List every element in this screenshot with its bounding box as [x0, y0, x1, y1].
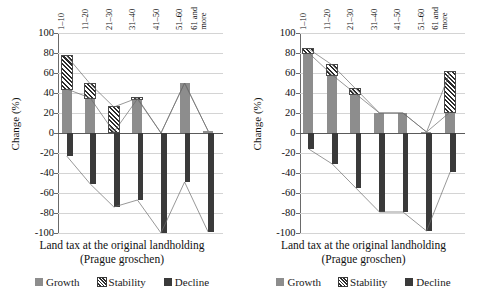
bar-decline[interactable] — [403, 133, 409, 212]
x-axis-title-line2: (Prague groschen) — [8, 252, 236, 266]
bar-decline[interactable] — [426, 133, 432, 231]
y-axis-title-right: Change (%) — [251, 79, 263, 169]
bar-group: 11–20 — [323, 33, 347, 233]
y-axis-tick-mark — [296, 233, 300, 234]
bar-decline[interactable] — [332, 133, 338, 164]
bar-decline[interactable] — [114, 133, 120, 207]
legend-label-growth: Growth — [46, 276, 80, 288]
bar-group: 1–10 — [58, 33, 82, 233]
y-axis-tick-label: 100 — [38, 28, 54, 39]
x-axis-category-label: 1–10 — [299, 13, 308, 30]
y-axis-tick-label: 20 — [285, 108, 296, 119]
bar-stability[interactable] — [109, 107, 119, 132]
bar-group: 21–30 — [347, 33, 371, 233]
bar-growth[interactable] — [327, 75, 337, 133]
bar-decline[interactable] — [450, 133, 456, 172]
y-axis-tick-label: -20 — [40, 148, 54, 159]
bar-group: 61 andmore — [441, 33, 465, 233]
gridline — [58, 233, 223, 234]
bar-group: 51–60 — [176, 33, 200, 233]
chart-panel-right: Change (%) 100806040200-20-40-60-80-1001… — [242, 0, 483, 295]
bar-decline[interactable] — [161, 133, 167, 233]
y-axis-tick-label: 60 — [285, 68, 296, 79]
legend-swatch-decline-icon — [405, 278, 413, 286]
y-axis-title-left: Change (%) — [9, 79, 21, 169]
bar-group: 51–60 — [417, 33, 441, 233]
bar-group: 41–50 — [152, 33, 176, 233]
y-axis-tick-label: -100 — [35, 228, 54, 239]
bar-growth[interactable] — [180, 83, 190, 133]
x-axis-category-label: 41–50 — [152, 9, 161, 30]
chart-panel-left: Change (%) 100806040200-20-40-60-80-1001… — [0, 0, 242, 295]
y-axis-tick-label: -20 — [282, 148, 296, 159]
y-axis-tick-label: -60 — [282, 188, 296, 199]
bar-stability[interactable] — [85, 84, 95, 98]
bar-decline[interactable] — [356, 133, 362, 188]
legend-item-stability: Stability — [339, 276, 387, 288]
bar-stability[interactable] — [132, 98, 142, 99]
x-axis-title-left: Land tax at the original landholding (Pr… — [8, 238, 236, 266]
bar-group: 11–20 — [82, 33, 106, 233]
legend-label-decline: Decline — [416, 276, 450, 288]
y-axis-tick-label: 60 — [44, 68, 55, 79]
bar-group: 21–30 — [105, 33, 129, 233]
legend-label-growth: Growth — [287, 276, 321, 288]
x-axis-category-label: 21–30 — [105, 9, 114, 30]
two-panel-bar-chart-figure: Change (%) 100806040200-20-40-60-80-1001… — [0, 0, 483, 295]
y-axis-tick-label: -100 — [276, 228, 295, 239]
y-axis-tick-label: 100 — [280, 28, 296, 39]
y-axis-tick-label: -80 — [40, 208, 54, 219]
bar-decline[interactable] — [208, 133, 214, 232]
legend-swatch-growth-icon — [35, 278, 43, 286]
x-axis-category-label: 61 andmore — [432, 7, 450, 30]
bar-decline[interactable] — [138, 133, 144, 200]
bar-stability[interactable] — [62, 56, 72, 89]
y-axis-tick-label: -80 — [282, 208, 296, 219]
legend-item-decline: Decline — [164, 276, 209, 288]
bar-decline[interactable] — [379, 133, 385, 212]
x-axis-category-label: 1–10 — [58, 13, 67, 30]
x-axis-category-label: 11–20 — [81, 9, 90, 30]
legend-swatch-stability-icon — [98, 278, 106, 286]
legend-item-stability: Stability — [98, 276, 146, 288]
legend-item-growth: Growth — [35, 276, 80, 288]
legend-swatch-stability-icon — [339, 278, 347, 286]
bar-stability[interactable] — [445, 72, 455, 112]
bar-growth[interactable] — [85, 98, 95, 133]
bar-stability[interactable] — [350, 89, 360, 94]
x-axis-category-label: 51–60 — [417, 9, 426, 30]
bar-stability[interactable] — [327, 65, 337, 75]
bar-decline[interactable] — [67, 133, 73, 156]
y-axis-tick-label: 40 — [44, 88, 55, 99]
bar-growth[interactable] — [62, 89, 72, 133]
bar-group: 1–10 — [300, 33, 324, 233]
legend-item-growth: Growth — [276, 276, 321, 288]
legend-left: Growth Stability Decline — [6, 276, 238, 288]
x-axis-category-label: 31–40 — [128, 9, 137, 30]
x-axis-category-label: 21–30 — [346, 9, 355, 30]
bar-growth[interactable] — [398, 113, 408, 133]
bar-group: 31–40 — [370, 33, 394, 233]
bar-group: 61 andmore — [199, 33, 223, 233]
y-axis-tick-label: 80 — [285, 48, 296, 59]
gridline — [300, 233, 465, 234]
y-axis-tick-label: 80 — [44, 48, 55, 59]
bar-growth[interactable] — [350, 94, 360, 133]
legend-swatch-growth-icon — [276, 278, 284, 286]
x-axis-category-label: 11–20 — [323, 9, 332, 30]
bar-growth[interactable] — [445, 112, 455, 133]
y-axis-tick-label: -60 — [40, 188, 54, 199]
x-axis-category-label: 31–40 — [370, 9, 379, 30]
y-axis-tick-label: -40 — [40, 168, 54, 179]
bar-growth[interactable] — [374, 113, 384, 133]
bar-decline[interactable] — [185, 133, 191, 182]
x-axis-title-line2: (Prague groschen) — [250, 252, 478, 266]
y-axis-tick-label: -40 — [282, 168, 296, 179]
bar-decline[interactable] — [90, 133, 96, 184]
bar-decline[interactable] — [308, 133, 314, 149]
bar-growth[interactable] — [303, 53, 313, 133]
bar-group: 31–40 — [129, 33, 153, 233]
x-axis-title-line1: Land tax at the original landholding — [250, 238, 478, 252]
bar-stability[interactable] — [303, 49, 313, 53]
bar-growth[interactable] — [132, 99, 142, 133]
